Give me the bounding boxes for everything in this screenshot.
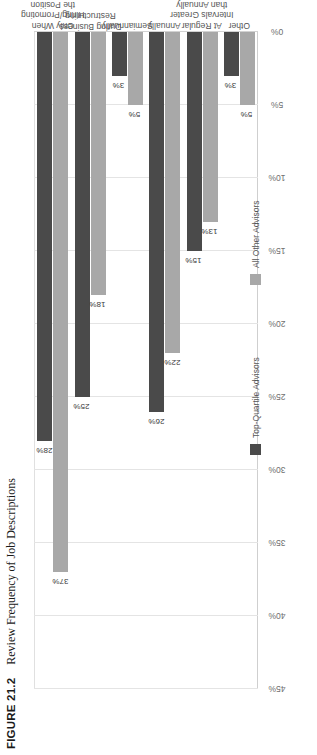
bar-all-other [165,32,180,353]
figure-title: FIGURE 21.2Review Frequency of Job Descr… [4,9,19,749]
legend-label: All Other Advisors [251,200,261,268]
bar-value-label: 5% [122,110,148,119]
bar-value-label: 13% [197,226,223,235]
bar-top-quartile [187,32,202,251]
bar-top-quartile [224,32,239,76]
plot-area [34,32,258,689]
bar-value-label: 26% [143,416,169,425]
bar-value-label: 28% [31,445,57,454]
bar-top-quartile [149,32,164,412]
category-label-line: the Position [0,0,113,10]
bar-all-other [128,32,143,105]
bar-top-quartile [112,32,127,76]
bar-value-label: 3% [218,80,244,89]
bar-value-label: 25% [69,402,95,411]
gridline [34,615,258,616]
category-label-line: Restructuring [30,10,150,21]
bar-top-quartile [37,32,52,441]
bar-value-label: 15% [181,256,207,265]
gridline [34,688,258,689]
legend-label: Top-Quartile Advisors [251,357,261,438]
bar-value-label: 3% [106,80,132,89]
bar-all-other [203,32,218,222]
legend-swatch-all-other [250,274,261,285]
chart-legend: Top-Quartile AdvisorsAll Other Advisors [244,0,284,755]
plot-top-border [34,32,35,689]
bar-value-label: 37% [47,577,73,586]
bar-all-other [91,32,106,295]
bar-top-quartile [75,32,90,397]
figure-number: FIGURE 21.2 [5,678,17,749]
legend-swatch-top-quartile [250,444,261,455]
figure-caption: Review Frequency of Job Descriptions [4,478,18,665]
figure-rotated-canvas: FIGURE 21.2Review Frequency of Job Descr… [0,0,317,755]
bar-value-label: 22% [159,358,185,367]
bar-all-other [53,32,68,572]
bar-value-label: 18% [85,299,111,308]
